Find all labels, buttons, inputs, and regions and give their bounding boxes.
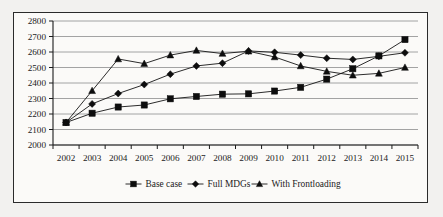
- x-axis-tick-label: 2008: [213, 153, 232, 163]
- y-axis-tick-label: 2700: [28, 32, 47, 42]
- x-axis-tick-label: 2015: [396, 153, 415, 163]
- marker-triangle: [115, 55, 122, 61]
- chart-legend: Base caseFull MDGsWith Frontloading: [126, 179, 341, 189]
- marker-diamond: [349, 56, 356, 63]
- x-axis-tick-label: 2002: [57, 153, 76, 163]
- marker-diamond: [219, 60, 226, 67]
- x-axis-tick-label: 2009: [239, 153, 258, 163]
- marker-diamond: [297, 52, 304, 59]
- marker-square: [324, 76, 330, 82]
- x-axis-tick-label: 2007: [187, 153, 206, 163]
- x-axis-tick-label: 2006: [161, 153, 180, 163]
- marker-square: [350, 66, 356, 72]
- marker-diamond: [323, 55, 330, 62]
- chart-figure: 2000210022002300240025002600270028002002…: [13, 12, 428, 203]
- y-axis-tick-label: 2300: [28, 94, 47, 104]
- marker-diamond: [401, 49, 408, 56]
- chart-plot-area: 2000210022002300240025002600270028002002…: [14, 13, 427, 202]
- marker-square: [141, 102, 147, 108]
- series-base-case: [63, 37, 408, 126]
- marker-square: [131, 181, 137, 187]
- y-axis-tick-label: 2000: [28, 140, 47, 150]
- x-axis-tick-label: 2012: [318, 153, 337, 163]
- marker-diamond: [192, 181, 198, 187]
- marker-triangle: [193, 47, 200, 53]
- marker-square: [402, 37, 408, 43]
- y-axis-tick-label: 2800: [28, 16, 47, 26]
- marker-square: [193, 93, 199, 99]
- x-axis-tick-label: 2005: [135, 153, 154, 163]
- marker-square: [219, 91, 225, 97]
- x-axis-tick-label: 2014: [370, 153, 389, 163]
- marker-diamond: [115, 90, 122, 97]
- legend-item-label: Base case: [146, 179, 183, 189]
- marker-diamond: [167, 71, 174, 78]
- x-axis-tick-label: 2004: [109, 153, 128, 163]
- marker-square: [272, 88, 278, 94]
- marker-square: [89, 110, 95, 116]
- y-axis-tick-label: 2200: [28, 109, 47, 119]
- marker-square: [298, 84, 304, 90]
- marker-diamond: [141, 81, 148, 88]
- y-axis-tick-label: 2400: [28, 78, 47, 88]
- x-axis-tick-label: 2013: [344, 153, 363, 163]
- y-axis-tick-label: 2100: [28, 125, 47, 135]
- marker-diamond: [89, 100, 96, 107]
- marker-square: [167, 96, 173, 102]
- marker-square: [245, 91, 251, 97]
- marker-square: [115, 104, 121, 110]
- y-axis-tick-label: 2500: [28, 63, 47, 73]
- line-chart: 2000210022002300240025002600270028002002…: [14, 13, 426, 201]
- legend-item-label: With Frontloading: [272, 179, 341, 189]
- x-axis-tick-label: 2011: [292, 153, 310, 163]
- x-axis-tick-label: 2003: [83, 153, 102, 163]
- y-axis-tick-label: 2600: [28, 47, 47, 57]
- marker-diamond: [193, 62, 200, 69]
- legend-item-label: Full MDGs: [208, 179, 251, 189]
- x-axis-tick-label: 2010: [265, 153, 284, 163]
